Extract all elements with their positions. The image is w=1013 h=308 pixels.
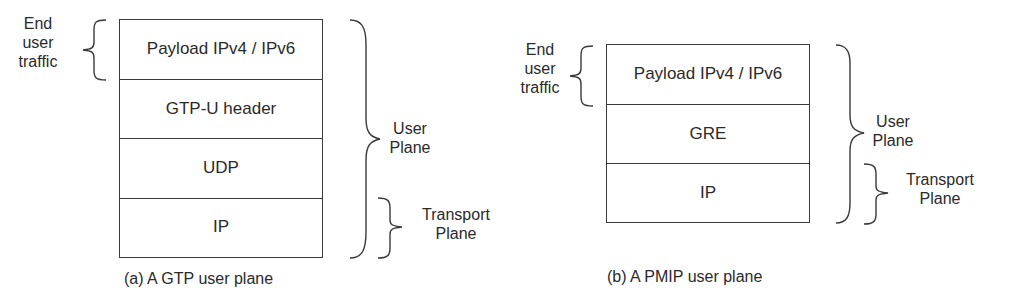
transport-plane-label: Transport Plane bbox=[890, 170, 990, 208]
end-user-traffic-brace-icon bbox=[78, 18, 108, 82]
label-line: End bbox=[510, 40, 570, 59]
user-plane-label: User Plane bbox=[863, 112, 923, 150]
label-line: traffic bbox=[8, 52, 68, 71]
label-line: User bbox=[380, 119, 440, 138]
label-line: Plane bbox=[380, 138, 440, 157]
label-line: traffic bbox=[510, 78, 570, 97]
label-line: Transport bbox=[406, 205, 506, 224]
transport-plane-label: Transport Plane bbox=[406, 205, 506, 243]
layer-ip: IP bbox=[120, 199, 322, 256]
gtp-protocol-stack: Payload IPv4 / IPv6 GTP-U header UDP IP bbox=[119, 19, 323, 258]
label-line: Transport bbox=[890, 170, 990, 189]
layer-payload: Payload IPv4 / IPv6 bbox=[607, 45, 809, 105]
user-plane-label: User Plane bbox=[380, 119, 440, 157]
gtp-caption: (a) A GTP user plane bbox=[124, 270, 273, 288]
pmip-protocol-stack: Payload IPv4 / IPv6 GRE IP bbox=[606, 44, 810, 223]
layer-gre: GRE bbox=[607, 105, 809, 165]
end-user-traffic-label: End user traffic bbox=[510, 40, 570, 97]
label-line: Plane bbox=[406, 224, 506, 243]
pmip-caption: (b) A PMIP user plane bbox=[607, 268, 762, 286]
end-user-traffic-label: End user traffic bbox=[8, 14, 68, 71]
layer-payload: Payload IPv4 / IPv6 bbox=[120, 20, 322, 80]
label-line: End bbox=[8, 14, 68, 33]
layer-ip: IP bbox=[607, 164, 809, 221]
layer-gtp-u-header: GTP-U header bbox=[120, 80, 322, 140]
label-line: User bbox=[863, 112, 923, 131]
label-line: Plane bbox=[863, 131, 923, 150]
transport-plane-brace-icon bbox=[376, 196, 408, 260]
label-line: user bbox=[510, 59, 570, 78]
label-line: user bbox=[8, 33, 68, 52]
end-user-traffic-brace-icon bbox=[565, 44, 595, 108]
label-line: Plane bbox=[890, 189, 990, 208]
layer-udp: UDP bbox=[120, 139, 322, 199]
